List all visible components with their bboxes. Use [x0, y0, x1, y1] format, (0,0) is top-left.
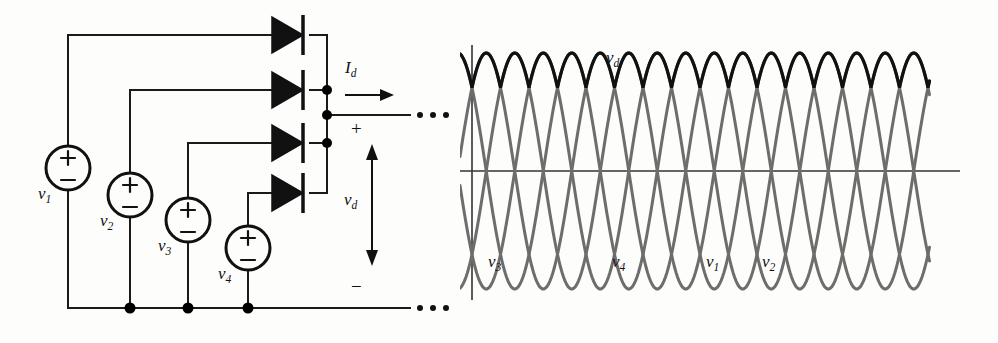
- waveform-plot: vd v3 v4 v1 v2: [460, 0, 998, 343]
- circuit-schematic: v1 v2 v3 v4 Id vd + −: [0, 0, 460, 343]
- waveform-svg: [460, 0, 998, 343]
- figure-root: v1 v2 v3 v4 Id vd + −: [0, 0, 998, 343]
- voltage-label-vd: vd: [344, 190, 357, 212]
- voltage-source-v1: [46, 146, 90, 190]
- circuit-svg: [0, 0, 460, 343]
- vd-envelope-curve: [460, 53, 930, 88]
- source-label-v2: v2: [100, 211, 113, 233]
- diode-group: [272, 15, 303, 213]
- curve-label-v1: v1: [706, 252, 719, 274]
- diode-2: [272, 70, 303, 110]
- junction-dot: [183, 303, 194, 314]
- current-arrow-id: [345, 89, 394, 101]
- terminal-minus-sign: −: [351, 276, 362, 298]
- curve-label-v3: v3: [488, 252, 501, 274]
- wire-v2-to-diode2: [130, 90, 272, 173]
- vd-envelope: [460, 53, 930, 88]
- diode-3: [272, 123, 303, 163]
- voltage-source-v4: [226, 226, 270, 270]
- junction-dot: [243, 303, 254, 314]
- source-label-v3: v3: [158, 236, 171, 258]
- voltage-source-v2: [108, 173, 152, 217]
- junction-dot: [322, 110, 332, 120]
- junction-dot: [322, 85, 332, 95]
- current-label-id: Id: [345, 58, 356, 80]
- curve-label-v2: v2: [762, 252, 775, 274]
- source-label-v4: v4: [218, 264, 231, 286]
- ellipsis-dots: [417, 112, 449, 311]
- vd-arrow: [366, 144, 378, 266]
- junction-dot: [125, 303, 136, 314]
- source-label-v1: v1: [38, 184, 51, 206]
- wire-v3-to-diode3: [188, 143, 272, 198]
- curve-label-v4: v4: [612, 252, 625, 274]
- terminal-plus-sign: +: [351, 118, 362, 140]
- wire-v4-to-diode4: [248, 193, 272, 226]
- diode-1: [272, 15, 303, 55]
- junction-dot: [322, 138, 332, 148]
- diode-4: [272, 173, 303, 213]
- curve-label-vd: vd: [606, 48, 619, 70]
- voltage-source-v3: [166, 198, 210, 242]
